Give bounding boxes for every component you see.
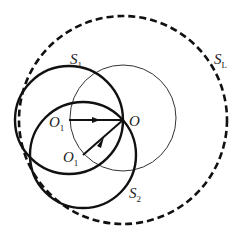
- label-s2: S2: [129, 185, 141, 204]
- vector-lower: [83, 120, 123, 155]
- label-o: O: [129, 113, 140, 129]
- label-o1-upper: O1: [49, 114, 64, 133]
- label-sl: SL: [214, 51, 227, 70]
- arrow-upper-icon: [92, 117, 100, 123]
- diagram-canvas: S1 SL O O1 O1 S2: [0, 0, 243, 233]
- label-o1-lower: O1: [63, 149, 78, 168]
